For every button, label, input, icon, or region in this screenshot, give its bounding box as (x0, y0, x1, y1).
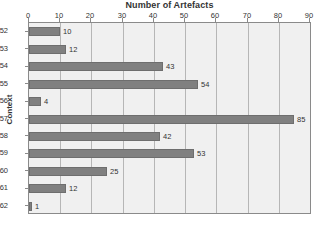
y-tick-mark (25, 170, 28, 171)
gridline (310, 23, 311, 213)
y-axis-title: Context (4, 85, 15, 135)
y-tick-mark (25, 48, 28, 49)
bar-chart: Number of Artefacts Context 101243544854… (0, 0, 321, 227)
bar-value-label: 25 (110, 167, 118, 176)
bar (29, 184, 66, 193)
y-tick-mark (25, 188, 28, 189)
bar (29, 97, 41, 106)
y-tick-mark (25, 118, 28, 119)
bar (29, 62, 163, 71)
bar-value-label: 53 (197, 149, 205, 158)
x-tick-mark (309, 18, 310, 22)
bar-value-label: 43 (166, 62, 174, 71)
y-tick-label: 156 (0, 96, 8, 105)
bar-value-label: 42 (163, 132, 171, 141)
y-tick-mark (25, 153, 28, 154)
y-tick-mark (25, 135, 28, 136)
y-tick-label: 161 (0, 183, 8, 192)
y-tick-label: 159 (0, 148, 8, 157)
y-tick-label: 157 (0, 114, 8, 123)
plot-area: 10124354485425325121 (28, 22, 311, 214)
x-tick-mark (247, 18, 248, 22)
x-tick-mark (278, 18, 279, 22)
x-tick-mark (153, 18, 154, 22)
bar (29, 149, 194, 158)
y-tick-label: 154 (0, 61, 8, 70)
bar-value-label: 12 (69, 45, 77, 54)
bar-value-label: 85 (297, 115, 305, 124)
bar-value-label: 12 (69, 184, 77, 193)
bar (29, 45, 66, 54)
x-tick-mark (215, 18, 216, 22)
bar (29, 80, 198, 89)
y-tick-mark (25, 66, 28, 67)
bar (29, 115, 294, 124)
y-tick-label: 160 (0, 166, 8, 175)
bar-value-label: 4 (44, 97, 48, 106)
bar (29, 202, 32, 211)
y-tick-mark (25, 31, 28, 32)
bar (29, 167, 107, 176)
bar (29, 132, 160, 141)
x-tick-mark (59, 18, 60, 22)
bar-value-label: 10 (63, 27, 71, 36)
x-tick-mark (122, 18, 123, 22)
y-tick-mark (25, 101, 28, 102)
y-tick-label: 153 (0, 44, 8, 53)
y-tick-label: 162 (0, 201, 8, 210)
x-tick-mark (184, 18, 185, 22)
y-tick-mark (25, 83, 28, 84)
bar-value-label: 1 (35, 202, 39, 211)
y-tick-mark (25, 205, 28, 206)
bar-value-label: 54 (201, 80, 209, 89)
bar (29, 27, 60, 36)
chart-title: Number of Artefacts (28, 0, 311, 11)
y-tick-label: 158 (0, 131, 8, 140)
y-tick-label: 152 (0, 26, 8, 35)
x-tick-mark (90, 18, 91, 22)
y-tick-label: 155 (0, 79, 8, 88)
x-tick-mark (28, 18, 29, 22)
